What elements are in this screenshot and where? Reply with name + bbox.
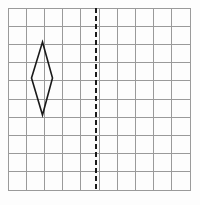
canvas-background bbox=[0, 0, 200, 205]
figure-canvas bbox=[0, 0, 200, 205]
grid-figure-svg bbox=[0, 0, 200, 205]
